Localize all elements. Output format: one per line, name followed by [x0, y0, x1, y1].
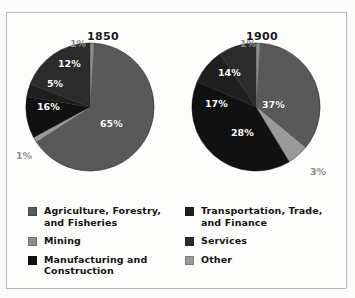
legend-swatch-icon — [28, 256, 37, 265]
legend-item-agriculture: Agriculture, Forestry, and Fisheries — [28, 205, 178, 228]
legend-label-manufacturing: Manufacturing and Construction — [44, 254, 178, 277]
slice-label-1850-other: 1% — [16, 150, 32, 161]
slice-label-1900-other: 3% — [310, 166, 326, 177]
legend-swatch-icon — [185, 207, 194, 216]
legend-label-transportation: Transportation, Trade, and Finance — [201, 205, 345, 228]
slice-label-1850-services: 12% — [58, 58, 81, 69]
legend-item-mining: Mining — [28, 235, 178, 247]
slice-label-1850-agriculture: 65% — [100, 118, 123, 129]
legend-item-transportation: Transportation, Trade, and Finance — [185, 205, 345, 228]
slice-label-1900-manufacturing: 28% — [231, 127, 254, 138]
legend-label-agriculture: Agriculture, Forestry, and Fisheries — [44, 205, 178, 228]
slice-label-1900-transportation: 17% — [205, 98, 228, 109]
slice-label-1900-mining: 1% — [240, 38, 256, 49]
slice-label-1900-agriculture: 37% — [262, 99, 285, 110]
legend-swatch-icon — [28, 237, 37, 246]
legend-swatch-icon — [28, 207, 37, 216]
slice-label-1900-services: 14% — [218, 67, 241, 78]
legend-swatch-icon — [185, 256, 194, 265]
legend-label-other: Other — [201, 254, 232, 266]
slice-label-1850-transportation: 5% — [47, 78, 63, 89]
legend-label-mining: Mining — [44, 235, 81, 247]
legend-swatch-icon — [185, 237, 194, 246]
legend-right-column: Transportation, Trade, and Finance Servi… — [185, 205, 345, 272]
legend-item-other: Other — [185, 254, 345, 266]
legend-item-services: Services — [185, 235, 345, 247]
slice-label-1850-manufacturing: 16% — [37, 101, 60, 112]
legend-item-manufacturing: Manufacturing and Construction — [28, 254, 178, 277]
legend-left-column: Agriculture, Forestry, and Fisheries Min… — [28, 205, 178, 284]
legend-label-services: Services — [201, 235, 247, 247]
slice-label-1850-mining: 1% — [70, 38, 86, 49]
chart-page: 1850 1900 65% 16% 5% 12% 1% 1% — [0, 0, 355, 298]
